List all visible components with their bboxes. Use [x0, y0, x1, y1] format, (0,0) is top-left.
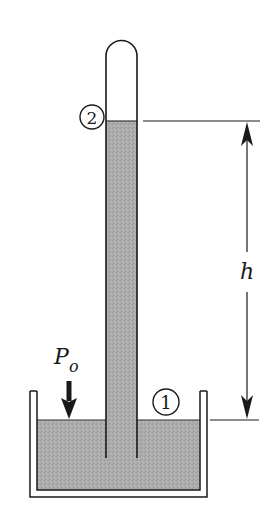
pressure-label-main: P	[53, 344, 70, 369]
pressure-arrow-shaft	[67, 381, 72, 401]
point-1-label: 1	[160, 392, 171, 413]
pressure-label-subscript: o	[69, 357, 79, 376]
height-label: h	[240, 259, 254, 284]
pressure-arrow-down-icon	[61, 398, 77, 419]
tube-liquid-column	[106, 121, 137, 458]
barometer-diagram: h 2 1 P o	[0, 0, 280, 521]
point-2-label: 2	[87, 108, 98, 128]
